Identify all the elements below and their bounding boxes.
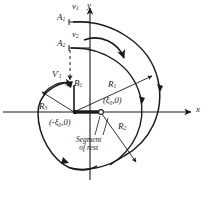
label-point-a2: A2 bbox=[57, 39, 65, 49]
label-point-a1: A1 bbox=[57, 13, 65, 23]
label-coordinate-left: (-ξ₀,0) bbox=[49, 118, 70, 127]
label-velocity-v1-prime: V'1 bbox=[52, 70, 62, 80]
point-marker-a2 bbox=[69, 45, 90, 51]
point-marker-a1 bbox=[69, 19, 90, 25]
label-axis-y: y bbox=[87, 1, 91, 10]
label-radius-r1: R1 bbox=[108, 80, 116, 90]
label-point-b1: B1 bbox=[74, 79, 82, 89]
label-coordinate-right: (ξ₀,0) bbox=[103, 96, 122, 105]
label-axis-x: x bbox=[196, 105, 200, 114]
segment-leader-lines bbox=[95, 116, 108, 135]
label-velocity-v1: v1 bbox=[72, 2, 79, 12]
label-segment-of-rest: Segment of rest bbox=[76, 136, 101, 152]
segment-of-rest-bar bbox=[73, 110, 104, 115]
label-radius-r2: R2 bbox=[118, 122, 126, 132]
label-velocity-v2: v2 bbox=[72, 30, 79, 40]
label-radius-r3: R3 bbox=[39, 102, 47, 112]
segment-line2: of rest bbox=[79, 143, 98, 152]
